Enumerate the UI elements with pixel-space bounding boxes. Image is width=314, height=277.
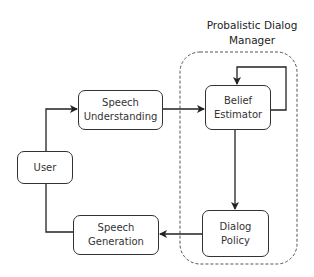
manager-container-title: Probalistic Dialog Manager bbox=[190, 18, 314, 48]
dialog-system-diagram: Probalistic Dialog Manager User Speech U… bbox=[0, 0, 314, 277]
manager-title-line1: Probalistic Dialog bbox=[190, 18, 314, 33]
node-user: User bbox=[17, 151, 73, 184]
edge-user-to-understanding bbox=[46, 109, 77, 151]
node-belief-estimator-line2: Estimator bbox=[214, 108, 262, 122]
manager-title-line2: Manager bbox=[190, 33, 314, 48]
node-speech-understanding: Speech Understanding bbox=[78, 90, 163, 130]
edge-generation-to-user bbox=[46, 184, 73, 232]
node-speech-generation: Speech Generation bbox=[73, 215, 159, 255]
node-dialog-policy: Dialog Policy bbox=[202, 210, 269, 257]
node-belief-estimator: Belief Estimator bbox=[205, 85, 271, 130]
node-user-label: User bbox=[34, 161, 57, 175]
node-speech-understanding-line1: Speech bbox=[84, 96, 158, 110]
node-speech-generation-line1: Speech bbox=[88, 221, 144, 235]
node-belief-estimator-line1: Belief bbox=[214, 94, 262, 108]
node-speech-understanding-line2: Understanding bbox=[84, 110, 158, 124]
node-dialog-policy-line2: Policy bbox=[220, 234, 252, 248]
node-dialog-policy-line1: Dialog bbox=[220, 220, 252, 234]
node-speech-generation-line2: Generation bbox=[88, 235, 144, 249]
